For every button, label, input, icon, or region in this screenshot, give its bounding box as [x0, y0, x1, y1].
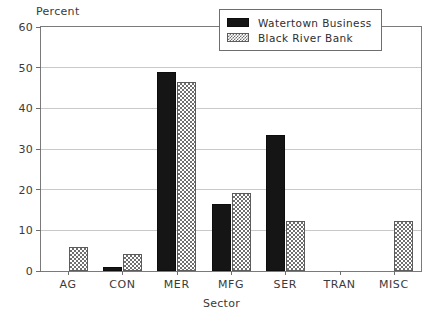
bar-chart: Percent 0102030405060AGCONMERMFGSERTRANM…	[0, 0, 443, 327]
y-axis-tick-label: 50	[18, 61, 33, 74]
bar	[286, 221, 305, 271]
y-axis-tick-label: 20	[18, 183, 33, 196]
x-axis-tick-label: CON	[109, 278, 135, 291]
chart-legend: Watertown Business Black River Bank	[219, 9, 382, 51]
x-axis-tick-label: MFG	[218, 278, 244, 291]
bar	[177, 82, 196, 271]
y-axis-tick-label: 10	[18, 224, 33, 237]
legend-label: Black River Bank	[258, 32, 353, 44]
y-axis-tick-label: 60	[18, 21, 33, 34]
x-axis-tick-mark	[122, 271, 123, 275]
y-axis-tick-mark	[36, 230, 41, 231]
legend-item: Black River Bank	[227, 30, 372, 45]
bar	[232, 193, 251, 271]
y-axis-tick-mark	[36, 149, 41, 150]
bar	[266, 135, 285, 271]
y-axis-tick-mark	[36, 271, 41, 272]
x-axis-tick-label: AG	[60, 278, 77, 291]
x-axis-tick-mark	[394, 271, 395, 275]
bar	[157, 72, 176, 271]
legend-item: Watertown Business	[227, 15, 372, 30]
x-axis-tick-mark	[231, 271, 232, 275]
legend-swatch-black-river-bank	[227, 33, 249, 42]
bar	[212, 204, 231, 271]
bar	[69, 247, 88, 271]
x-axis-tick-mark	[340, 271, 341, 275]
y-axis-tick-mark	[36, 27, 41, 28]
x-axis-tick-mark	[285, 271, 286, 275]
x-axis-tick-label: MER	[164, 278, 190, 291]
y-axis-tick-label: 0	[26, 265, 33, 278]
gridline	[41, 108, 421, 109]
x-axis-tick-label: TRAN	[324, 278, 356, 291]
x-axis-title: Sector	[0, 297, 443, 310]
legend-label: Watertown Business	[258, 17, 372, 29]
y-axis-tick-mark	[36, 108, 41, 109]
plot-area: 0102030405060AGCONMERMFGSERTRANMISC	[40, 26, 422, 272]
gridline	[41, 189, 421, 190]
y-axis-tick-mark	[36, 67, 41, 68]
gridline	[41, 149, 421, 150]
bar	[394, 221, 413, 271]
legend-swatch-watertown-business	[227, 18, 249, 27]
gridline	[41, 67, 421, 68]
y-axis-tick-label: 30	[18, 143, 33, 156]
x-axis-tick-label: MISC	[379, 278, 409, 291]
bar	[103, 267, 122, 271]
bar	[123, 254, 142, 271]
y-axis-tick-mark	[36, 189, 41, 190]
y-axis-tick-label: 40	[18, 102, 33, 115]
y-axis-title: Percent	[36, 5, 80, 18]
x-axis-tick-mark	[177, 271, 178, 275]
x-axis-tick-mark	[68, 271, 69, 275]
x-axis-tick-label: SER	[274, 278, 297, 291]
